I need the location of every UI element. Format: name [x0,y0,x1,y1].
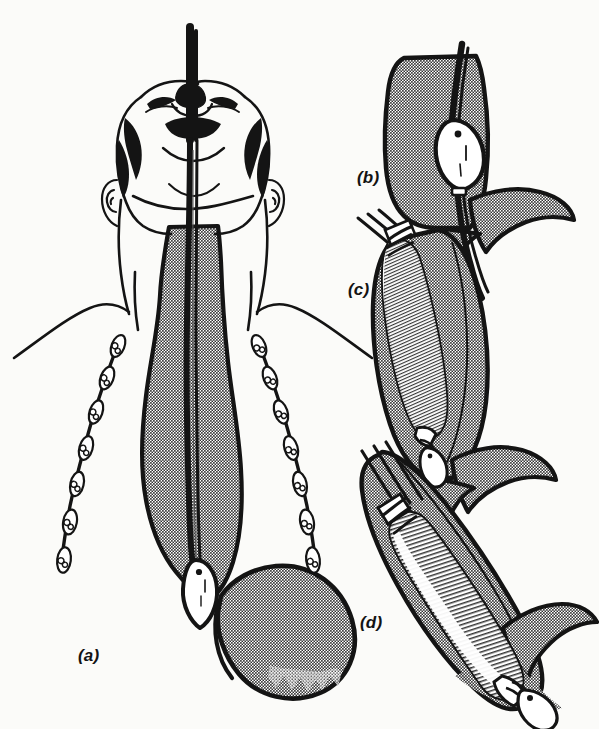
panel-label-c: (c) [348,280,369,300]
panel-d-olive-tip [518,690,557,729]
panel-label-a: (a) [78,646,99,666]
right-dilator-chain [249,333,322,574]
panel-c-fundus-right [452,447,556,512]
figure-root: (a) (b) (c) (d) [0,0,599,729]
panel-a-figure [14,27,372,699]
panel-label-b: (b) [357,168,379,188]
panel-b-fundus-right [470,189,574,252]
panel-label-d: (d) [360,613,382,633]
left-dilator-chain [56,333,129,574]
medical-illustration [0,0,599,729]
olive-dilator-at-cardia [183,560,217,628]
